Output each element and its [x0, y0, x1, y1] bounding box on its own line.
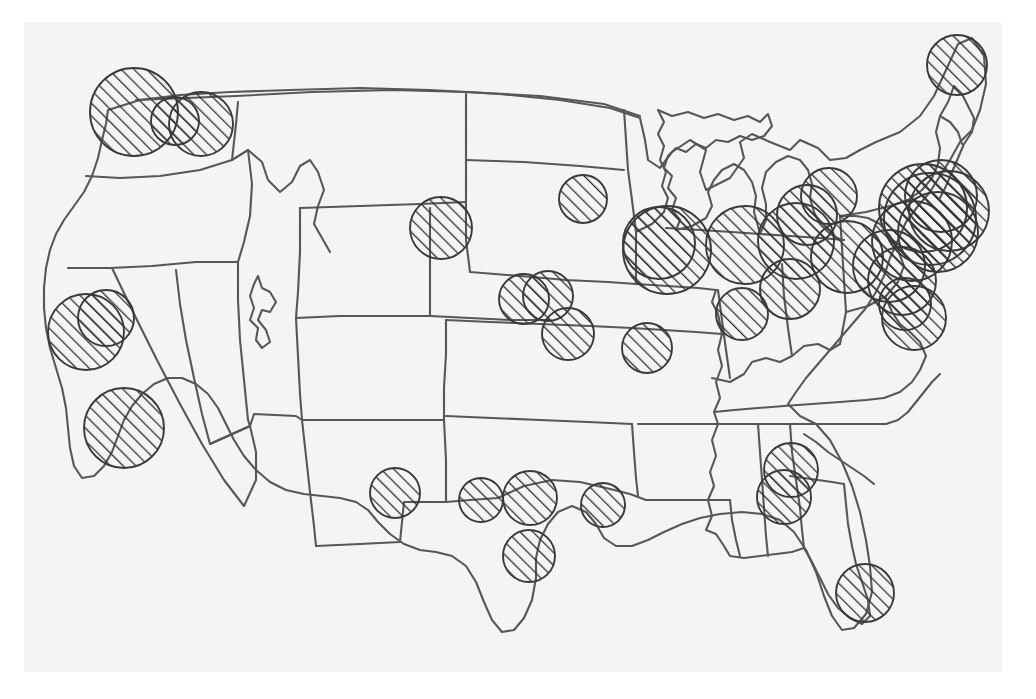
- symbol-circle[interactable]: [78, 290, 134, 346]
- symbol-circle[interactable]: [836, 564, 894, 622]
- symbol-circle[interactable]: [622, 323, 672, 373]
- symbol-circle[interactable]: [909, 171, 989, 251]
- border-tn-ky: [714, 398, 884, 412]
- border-wy-ut-id: [296, 208, 300, 318]
- border-ne-ks: [446, 320, 632, 328]
- border-gulf-coast: [706, 530, 804, 558]
- symbol-circle[interactable]: [370, 468, 420, 518]
- symbol-circle[interactable]: [410, 197, 472, 259]
- symbol-circle[interactable]: [879, 278, 931, 330]
- border-la-ms: [730, 500, 740, 556]
- border-ky-oh: [712, 344, 840, 382]
- symbol-circle[interactable]: [84, 388, 164, 468]
- border-ok-east: [632, 424, 638, 496]
- border-wa-or: [86, 150, 248, 178]
- symbol-circle[interactable]: [503, 530, 555, 582]
- symbol-circle[interactable]: [503, 471, 557, 525]
- symbol-circle[interactable]: [459, 478, 503, 522]
- symbol-circle[interactable]: [559, 175, 607, 223]
- symbol-circle[interactable]: [542, 308, 594, 360]
- border-co-ks-south: [444, 320, 446, 420]
- border-nm-tx: [444, 420, 446, 502]
- border-ut-wy-co: [296, 316, 430, 318]
- border-id-nv-ut: [238, 262, 250, 426]
- border-or-ca-nv: [68, 262, 238, 268]
- symbol-circle[interactable]: [757, 470, 811, 524]
- symbol-circle[interactable]: [581, 483, 625, 527]
- border-az-nm: [302, 420, 316, 546]
- border-ks-ok: [446, 416, 632, 424]
- border-nv-az: [244, 426, 256, 506]
- border-ca-nv: [112, 268, 244, 506]
- us-map-svg: [0, 0, 1036, 699]
- symbol-circle[interactable]: [760, 259, 820, 319]
- border-mt-id: [248, 150, 330, 252]
- border-or-id: [238, 150, 252, 262]
- border-ut-notch: [250, 276, 276, 348]
- symbol-circle[interactable]: [169, 92, 233, 156]
- symbol-circle[interactable]: [927, 35, 987, 95]
- map-root: [0, 0, 1036, 699]
- border-nd-sd: [466, 160, 624, 170]
- symbol-circle[interactable]: [801, 168, 857, 224]
- symbol-circle[interactable]: [623, 207, 695, 279]
- border-vt-nh: [940, 116, 962, 144]
- border-co-south: [296, 318, 302, 420]
